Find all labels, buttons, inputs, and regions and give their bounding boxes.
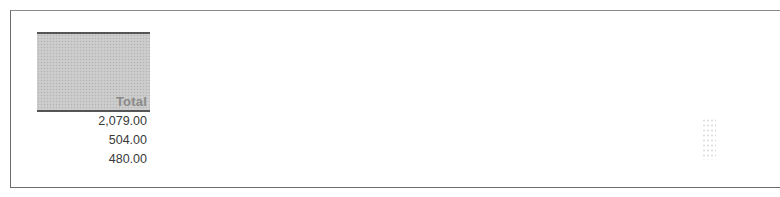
scan-noise-mark [702, 118, 716, 160]
column-header-label: Total [116, 94, 147, 109]
totals-table: Total 2,079.00 504.00 480.00 [37, 32, 150, 169]
column-header-total: Total [37, 32, 150, 112]
table-row: 2,079.00 [37, 112, 150, 131]
table-row: 504.00 [37, 131, 150, 150]
table-row: 480.00 [37, 150, 150, 169]
